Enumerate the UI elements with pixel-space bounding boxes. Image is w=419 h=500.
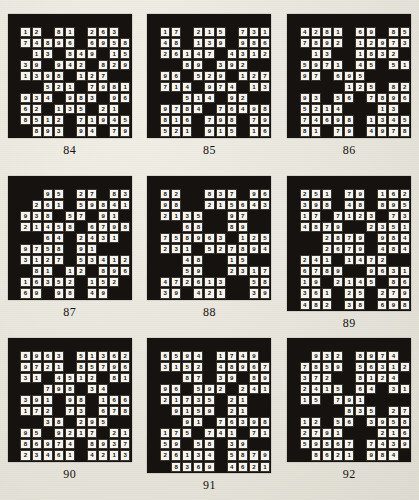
digit-cell[interactable]: 9 bbox=[171, 288, 182, 299]
digit-cell[interactable]: 7 bbox=[237, 26, 248, 37]
digit-cell[interactable]: 9 bbox=[237, 221, 248, 232]
digit-cell[interactable]: 2 bbox=[75, 266, 86, 277]
digit-cell[interactable]: 7 bbox=[248, 428, 259, 439]
digit-cell[interactable]: 7 bbox=[310, 266, 321, 277]
digit-cell[interactable]: 3 bbox=[399, 37, 410, 48]
digit-cell[interactable]: 8 bbox=[259, 104, 270, 115]
digit-cell[interactable]: 8 bbox=[226, 221, 237, 232]
digit-cell[interactable]: 9 bbox=[377, 232, 388, 243]
digit-cell[interactable]: 9 bbox=[321, 37, 332, 48]
digit-cell[interactable]: 4 bbox=[399, 244, 410, 255]
digit-cell[interactable]: 5 bbox=[42, 244, 53, 255]
digit-cell[interactable]: 4 bbox=[310, 255, 321, 266]
digit-cell[interactable]: 5 bbox=[399, 26, 410, 37]
digit-cell[interactable]: 3 bbox=[42, 277, 53, 288]
digit-cell[interactable]: 8 bbox=[53, 244, 64, 255]
digit-cell[interactable]: 9 bbox=[344, 394, 355, 405]
digit-cell[interactable]: 7 bbox=[31, 406, 42, 417]
digit-cell[interactable]: 7 bbox=[204, 428, 215, 439]
digit-cell[interactable]: 8 bbox=[193, 221, 204, 232]
digit-cell[interactable]: 1 bbox=[310, 48, 321, 59]
digit-cell[interactable]: 7 bbox=[310, 428, 321, 439]
digit-cell[interactable]: 5 bbox=[299, 439, 310, 450]
digit-cell[interactable]: 6 bbox=[344, 417, 355, 428]
digit-cell[interactable]: 2 bbox=[399, 361, 410, 372]
digit-cell[interactable]: 6 bbox=[226, 417, 237, 428]
digit-cell[interactable]: 3 bbox=[215, 372, 226, 383]
digit-cell[interactable]: 5 bbox=[399, 199, 410, 210]
digit-cell[interactable]: 9 bbox=[182, 350, 193, 361]
digit-cell[interactable]: 9 bbox=[75, 244, 86, 255]
digit-cell[interactable]: 8 bbox=[237, 450, 248, 461]
digit-cell[interactable]: 5 bbox=[388, 59, 399, 70]
digit-cell[interactable]: 1 bbox=[20, 26, 31, 37]
digit-cell[interactable]: 1 bbox=[171, 82, 182, 93]
digit-cell[interactable]: 3 bbox=[31, 450, 42, 461]
digit-cell[interactable]: 4 bbox=[310, 115, 321, 126]
digit-cell[interactable]: 1 bbox=[299, 394, 310, 405]
digit-cell[interactable]: 4 bbox=[299, 221, 310, 232]
digit-cell[interactable]: 3 bbox=[20, 394, 31, 405]
digit-cell[interactable]: 4 bbox=[182, 82, 193, 93]
digit-cell[interactable]: 6 bbox=[182, 115, 193, 126]
digit-cell[interactable]: 2 bbox=[333, 277, 344, 288]
digit-cell[interactable]: 1 bbox=[53, 199, 64, 210]
digit-cell[interactable]: 3 bbox=[388, 104, 399, 115]
digit-cell[interactable]: 8 bbox=[388, 244, 399, 255]
digit-cell[interactable]: 1 bbox=[344, 210, 355, 221]
digit-cell[interactable]: 9 bbox=[42, 70, 53, 81]
digit-cell[interactable]: 3 bbox=[310, 93, 321, 104]
digit-cell[interactable]: 5 bbox=[215, 26, 226, 37]
digit-cell[interactable]: 4 bbox=[355, 59, 366, 70]
digit-cell[interactable]: 2 bbox=[75, 417, 86, 428]
digit-cell[interactable]: 3 bbox=[20, 255, 31, 266]
digit-cell[interactable]: 3 bbox=[20, 59, 31, 70]
digit-cell[interactable]: 2 bbox=[377, 288, 388, 299]
digit-cell[interactable]: 1 bbox=[86, 350, 97, 361]
digit-cell[interactable]: 2 bbox=[377, 255, 388, 266]
digit-cell[interactable]: 1 bbox=[248, 82, 259, 93]
digit-cell[interactable]: 5 bbox=[333, 93, 344, 104]
digit-cell[interactable]: 7 bbox=[98, 221, 109, 232]
digit-cell[interactable]: 4 bbox=[53, 232, 64, 243]
digit-cell[interactable]: 1 bbox=[344, 255, 355, 266]
digit-cell[interactable]: 1 bbox=[64, 82, 75, 93]
digit-cell[interactable]: 7 bbox=[31, 361, 42, 372]
digit-cell[interactable]: 1 bbox=[321, 288, 332, 299]
digit-cell[interactable]: 2 bbox=[299, 188, 310, 199]
digit-cell[interactable]: 5 bbox=[299, 59, 310, 70]
digit-cell[interactable]: 2 bbox=[109, 277, 120, 288]
digit-cell[interactable]: 9 bbox=[248, 188, 259, 199]
digit-cell[interactable]: 2 bbox=[215, 244, 226, 255]
digit-cell[interactable]: 9 bbox=[259, 450, 270, 461]
digit-cell[interactable]: 8 bbox=[64, 383, 75, 394]
digit-cell[interactable]: 4 bbox=[193, 48, 204, 59]
digit-cell[interactable]: 3 bbox=[299, 199, 310, 210]
digit-cell[interactable]: 5 bbox=[388, 417, 399, 428]
digit-cell[interactable]: 2 bbox=[20, 450, 31, 461]
digit-cell[interactable]: 5 bbox=[86, 361, 97, 372]
digit-cell[interactable]: 2 bbox=[98, 104, 109, 115]
digit-cell[interactable]: 9 bbox=[344, 126, 355, 137]
digit-cell[interactable]: 7 bbox=[259, 266, 270, 277]
digit-cell[interactable]: 7 bbox=[42, 383, 53, 394]
digit-cell[interactable]: 8 bbox=[321, 266, 332, 277]
digit-cell[interactable]: 9 bbox=[193, 232, 204, 243]
digit-cell[interactable]: 7 bbox=[204, 115, 215, 126]
digit-cell[interactable]: 9 bbox=[42, 126, 53, 137]
digit-cell[interactable]: 6 bbox=[42, 232, 53, 243]
digit-cell[interactable]: 2 bbox=[75, 59, 86, 70]
digit-cell[interactable]: 5 bbox=[310, 394, 321, 405]
digit-cell[interactable]: 3 bbox=[248, 288, 259, 299]
digit-cell[interactable]: 7 bbox=[53, 255, 64, 266]
digit-cell[interactable]: 9 bbox=[333, 361, 344, 372]
digit-cell[interactable]: 9 bbox=[109, 266, 120, 277]
digit-cell[interactable]: 8 bbox=[75, 394, 86, 405]
digit-cell[interactable]: 9 bbox=[388, 199, 399, 210]
digit-cell[interactable]: 3 bbox=[31, 70, 42, 81]
digit-cell[interactable]: 5 bbox=[321, 361, 332, 372]
digit-cell[interactable]: 2 bbox=[388, 406, 399, 417]
digit-cell[interactable]: 1 bbox=[20, 406, 31, 417]
digit-cell[interactable]: 7 bbox=[248, 115, 259, 126]
digit-cell[interactable]: 8 bbox=[120, 221, 131, 232]
